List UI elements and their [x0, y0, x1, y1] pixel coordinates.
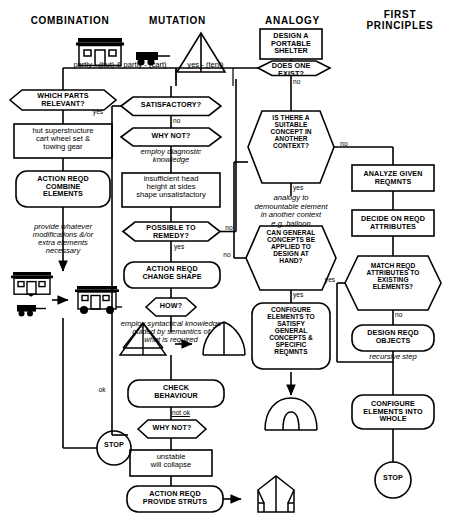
- node-suitable-concept[interactable]: IS THERE A SUITABLE CONCEPT IN ANOTHER C…: [256, 114, 326, 149]
- node-which-parts[interactable]: WHICH PARTS RELEVANT?: [14, 92, 112, 107]
- edge-label-yes-match: yes: [320, 276, 340, 283]
- node-can-general-concepts[interactable]: CAN GENERAL CONCEPTS BE APPLIED TO DESIG…: [256, 229, 326, 264]
- column-heading-combination: COMBINATION: [10, 16, 130, 27]
- node-design-shelter[interactable]: DESIGN A PORTABLE SHELTER: [260, 32, 322, 55]
- node-insufficient-head-height[interactable]: insufficient head height at sides shape …: [122, 175, 220, 199]
- cart-icon-small: [17, 305, 46, 317]
- node-configure-satisfy[interactable]: CONFIGURE ELEMENTS TO SATISFY GENERAL CO…: [252, 306, 330, 355]
- plus-icon: +: [24, 292, 38, 300]
- node-analyze-given-reqmnts[interactable]: ANALYZE GIVEN REQMNTS: [353, 170, 433, 185]
- edge-label-no-satisfactory: no: [173, 117, 189, 124]
- label-yes-tent: yes - (tent): [178, 61, 233, 69]
- annotation-recursive-step: recursive step: [353, 353, 433, 361]
- node-check-behaviour[interactable]: CHECK BEHAVIOUR: [131, 384, 221, 399]
- annotation-analogy-to: analogy to demountable element in anothe…: [233, 194, 349, 228]
- node-does-one-exist[interactable]: DOES ONE EXIST?: [261, 62, 321, 77]
- node-stop-right[interactable]: STOP: [377, 474, 409, 482]
- edge-label-yes-satisfactory: yes: [88, 108, 108, 115]
- node-how[interactable]: HOW?: [151, 302, 191, 310]
- node-action-change-shape[interactable]: ACTION REQD CHANGE SHAPE: [126, 265, 218, 280]
- node-why-not-2[interactable]: WHY NOT?: [142, 424, 202, 432]
- node-action-provide-struts[interactable]: ACTION REQD PROVIDE STRUTS: [129, 490, 221, 505]
- edge-label-yes-suitable: yes: [293, 184, 313, 191]
- column-heading-mutation: MUTATION: [125, 16, 230, 27]
- edge-label-ok-check: ok: [93, 386, 111, 393]
- annotation-employ-diagnostic: employ diagnostic knowledge: [122, 148, 220, 164]
- flowchart-canvas: COMBINATION MUTATION ANALOGY FIRST PRINC…: [0, 0, 453, 524]
- edge-label-no-can-general: no: [219, 251, 235, 258]
- annotation-provide-whatever: provide whatever modifications &/or extr…: [10, 223, 116, 255]
- ridge-tent-icon: [258, 476, 294, 512]
- edge-label-no-exist: no: [293, 78, 309, 85]
- edge-label-not-ok-check: not ok: [172, 409, 200, 416]
- node-decide-reqd-attributes[interactable]: DECIDE ON REQD ATTRIBUTES: [353, 215, 433, 230]
- node-satisfactory[interactable]: SATISFACTORY?: [125, 101, 217, 109]
- column-heading-analogy: ANALOGY: [245, 16, 340, 27]
- node-configure-elements-whole[interactable]: CONFIGURE ELEMENTS INTO WHOLE: [353, 400, 433, 423]
- node-why-not-1[interactable]: WHY NOT?: [125, 132, 217, 140]
- node-hut-superstructure[interactable]: hut superstructure cart wheel set & towi…: [15, 127, 111, 151]
- node-unstable-will-collapse[interactable]: unstable will collapse: [131, 453, 211, 469]
- node-match-reqd-attributes[interactable]: MATCH REQD ATTRIBUTES TO EXISTING ELEMEN…: [355, 262, 431, 290]
- node-design-reqd-objects[interactable]: DESIGN REQD OBJECTS: [353, 329, 433, 344]
- dome-tent-icon: [265, 398, 317, 430]
- edge-label-no-match: no: [395, 311, 411, 318]
- node-action-combine[interactable]: ACTION REQD COMBINE ELEMENTS: [17, 175, 109, 198]
- annotation-employ-syntactical: employ syntactical knowledge guided by s…: [107, 320, 235, 344]
- column-heading-first-principles: FIRST PRINCIPLES: [355, 10, 445, 31]
- label-partly-hut-cart: partly - (hut) & partly - (cart): [64, 61, 176, 69]
- edge-label-yes-remedy: yes: [174, 243, 194, 250]
- node-stop-left[interactable]: STOP: [98, 441, 130, 449]
- node-possible-remedy[interactable]: POSSIBLE TO REMEDY?: [126, 224, 216, 239]
- edge-label-yes-can-general: yes: [293, 291, 313, 298]
- hut-on-wheels-icon: [75, 286, 122, 314]
- edge-label-no-suitable: no: [336, 140, 352, 147]
